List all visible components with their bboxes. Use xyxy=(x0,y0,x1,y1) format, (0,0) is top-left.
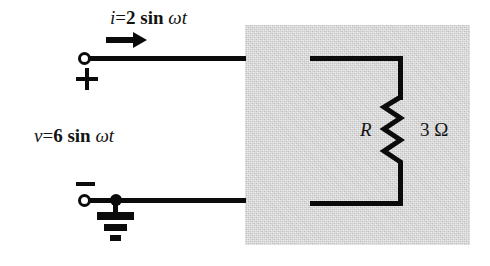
ground-bar-2 xyxy=(104,224,127,231)
negative-polarity-sign xyxy=(76,182,95,186)
current-argument: ωt xyxy=(168,7,187,28)
resistor-bottom-lead xyxy=(398,163,403,206)
voltage-argument: ωt xyxy=(95,125,114,146)
ground-bar-1 xyxy=(97,212,134,220)
resistor-value-label: 3 Ω xyxy=(420,120,448,139)
current-equals: = xyxy=(115,7,126,28)
voltage-function: sin xyxy=(67,125,90,146)
top-lead-wire xyxy=(90,56,246,61)
current-source-equation: i=2 sin ωt xyxy=(110,8,187,27)
inner-bottom-wire xyxy=(310,201,403,206)
circuit-diagram-canvas: i=2 sin ωt v=6 sin ωt R xyxy=(0,0,490,266)
arrow-head xyxy=(133,32,147,48)
inner-top-wire xyxy=(310,56,403,61)
resistor-top-lead xyxy=(398,56,403,100)
ground-bar-3 xyxy=(110,235,121,241)
resistor-symbol xyxy=(378,96,422,168)
voltage-amplitude: 6 xyxy=(53,125,63,146)
current-amplitude: 2 xyxy=(126,7,136,28)
voltage-equals: = xyxy=(42,125,53,146)
current-direction-arrow xyxy=(106,34,148,46)
voltage-source-equation: v=6 sin ωt xyxy=(34,126,114,145)
resistor-designator-label: R xyxy=(360,120,372,139)
arrow-shaft xyxy=(106,37,134,43)
current-function: sin xyxy=(140,7,163,28)
positive-polarity-sign xyxy=(76,68,98,90)
